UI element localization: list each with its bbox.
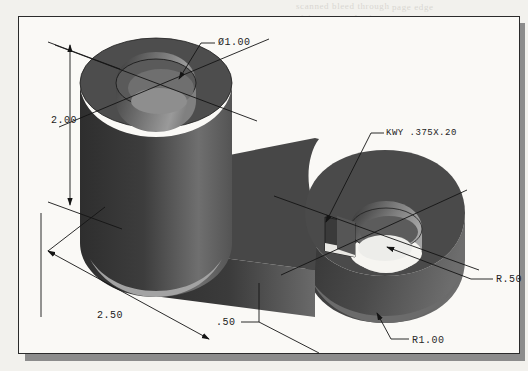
dim-leader-50-angled <box>259 322 319 353</box>
isometric-solid-drawing <box>19 17 519 353</box>
figure-frame: Ø1.00 2.00 2.50 .50 KWY .375X.20 R.50 R1… <box>18 16 520 354</box>
dimension-label-bore-diameter: Ø1.00 <box>218 37 251 48</box>
bleed-through-text-1: scanned bleed through <box>296 1 390 11</box>
drawing-stage: Ø1.00 2.00 2.50 .50 KWY .375X.20 R.50 R1… <box>19 17 519 353</box>
dimension-label-plate-thickness: .50 <box>216 317 236 328</box>
solid-model <box>80 38 465 323</box>
dimension-label-overall-length: 2.50 <box>97 310 123 321</box>
dimension-label-boss-height: 2.00 <box>51 115 77 126</box>
small-hole-bottom-bright <box>358 235 412 261</box>
dimension-label-pad-radius: R1.00 <box>412 335 445 346</box>
bleed-through-text-3: page edge <box>392 2 434 12</box>
dimension-label-keyway-callout: KWY .375X.20 <box>386 128 457 138</box>
scanned-page: scanned bleed through faint reversed pri… <box>0 0 528 371</box>
dimension-label-small-hole-radius: R.50 <box>496 274 522 285</box>
